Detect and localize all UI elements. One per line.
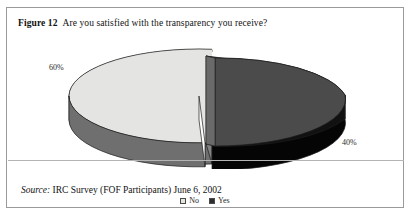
pie-chart: 60% 40% NoYes [7, 34, 403, 169]
source-label: Source: [21, 185, 50, 195]
pie-slice-yes-cut-edge [206, 56, 215, 146]
legend-swatch-no-icon [180, 198, 186, 204]
legend-label-no: No [189, 196, 199, 206]
legend-item-yes[interactable]: Yes [209, 196, 230, 206]
figure-source: Source: IRC Survey (FOF Participants) Ju… [21, 184, 222, 196]
pie-label-no-percent: 60% [49, 63, 64, 72]
source-value: IRC Survey (FOF Participants) June 6, 20… [53, 185, 222, 195]
figure-container: Figure 12 Are you satisfied with the tra… [6, 7, 404, 208]
figure-caption: Are you satisfied with the transparency … [62, 18, 267, 28]
source-divider [8, 160, 404, 161]
chart-legend: NoYes [7, 196, 403, 206]
figure-number: Figure 12 [18, 18, 58, 28]
pie-label-yes-percent: 40% [342, 138, 357, 147]
legend-swatch-yes-icon [209, 198, 215, 204]
pie-chart-graphic [7, 34, 403, 169]
legend-item-no[interactable]: No [180, 196, 199, 206]
legend-label-yes: Yes [218, 196, 230, 206]
figure-title: Figure 12 Are you satisfied with the tra… [18, 17, 267, 29]
